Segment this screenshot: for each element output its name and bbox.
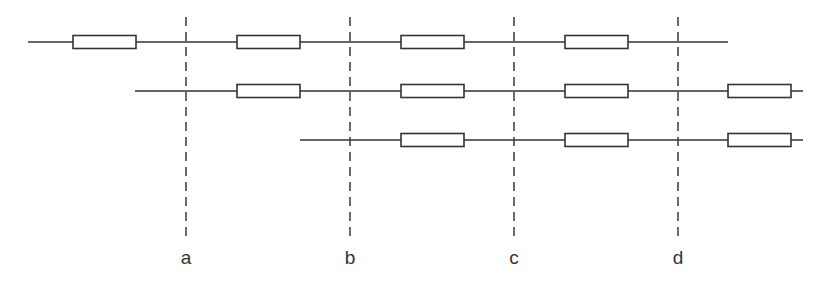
divider-label-d: d [673, 247, 684, 268]
segment-box [565, 85, 628, 98]
segment-box [728, 85, 791, 98]
segment-box [565, 134, 628, 147]
segment-box [728, 134, 791, 147]
segment-box [73, 36, 136, 49]
segment-box [237, 36, 300, 49]
segment-box [401, 134, 464, 147]
divider-label-a: a [181, 247, 192, 268]
segment-box [401, 36, 464, 49]
rows-group [28, 36, 803, 147]
divider-label-c: c [509, 247, 519, 268]
row-3 [300, 134, 803, 147]
dividers-group [186, 17, 678, 240]
staggered-sequence-diagram: a b c d [0, 0, 822, 281]
divider-label-b: b [345, 247, 356, 268]
segment-box [237, 85, 300, 98]
segment-box [565, 36, 628, 49]
row-1 [28, 36, 728, 49]
row-2 [135, 85, 803, 98]
labels-group: a b c d [181, 247, 684, 268]
segment-box [401, 85, 464, 98]
